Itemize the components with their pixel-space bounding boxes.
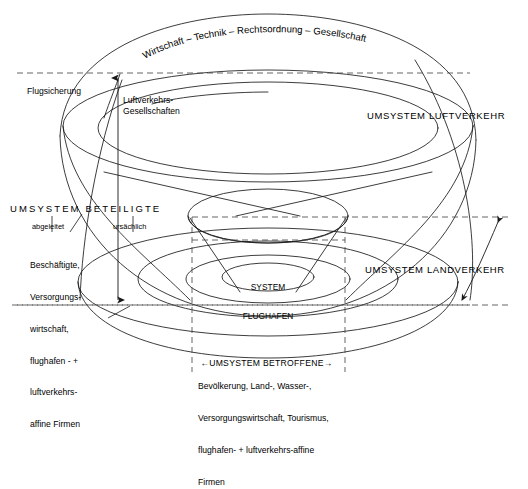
label-luftverkehrs-gesellschaften-line2: Gesellschaften	[123, 106, 180, 117]
umsystem-luftverkehr-rim	[63, 70, 473, 182]
label-umsystem-landverkehr: UMSYSTEM LANDVERKEHR	[365, 264, 505, 275]
betroffene-detail-line: Versorgungswirtschaft, Tourismus,	[198, 413, 329, 424]
label-umsystem-luftverkehr: UMSYSTEM LUFTVERKEHR	[367, 110, 505, 121]
landverkehr-side-arrow	[462, 222, 498, 300]
label-abgeleitet: abgeleitet	[32, 222, 64, 231]
beteiligte-detail-line: flughafen - +	[30, 356, 81, 367]
beteiligte-detail-line: Versorgungs-	[30, 292, 81, 303]
betroffene-detail-line: flughafen- + luftverkehrs-affine	[198, 445, 329, 456]
beteiligte-detail-line: Beschäftigte,	[30, 260, 81, 271]
core-system-flughafen-label: SYSTEM FLUGHAFEN	[226, 263, 310, 341]
beteiligte-detail-block: Beschäftigte, Versorgungs- wirtschaft, f…	[30, 239, 81, 451]
middle-funnel-disc	[188, 189, 348, 243]
beteiligte-detail-line: affine Firmen	[30, 419, 81, 430]
label-umsystem-beteiligte: UMSYSTEM BETEILIGTE	[10, 203, 161, 214]
betroffene-detail-block: Bevölkerung, Land-, Wasser-, Versorgungs…	[198, 360, 329, 489]
betroffene-detail-line: Bevölkerung, Land-, Wasser-,	[198, 381, 329, 392]
core-line-1: SYSTEM	[226, 283, 310, 293]
core-line-2: FLUGHAFEN	[226, 312, 310, 322]
beteiligte-detail-line: wirtschaft,	[30, 324, 81, 335]
betroffene-detail-line: Firmen	[198, 477, 329, 488]
curved-context-title: Wirtschaft – Technik – Rechtsordnung – G…	[141, 23, 368, 61]
label-ursaechlich: ursächlich	[113, 222, 146, 231]
label-luftverkehrs-gesellschaften-line1: Luftverkehrs-	[123, 95, 173, 106]
betroffene-leader	[108, 306, 130, 318]
label-flugsicherung: Flugsicherung	[27, 86, 81, 97]
beteiligte-detail-line: luftverkehrs-	[30, 387, 81, 398]
